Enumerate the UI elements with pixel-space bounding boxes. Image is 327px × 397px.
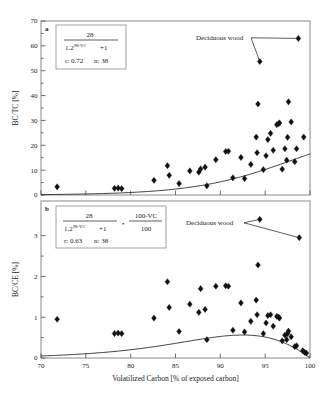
annotation-leader-line [251,38,298,39]
y-tick-label: 40 [31,92,39,100]
data-point [268,130,273,136]
data-point [264,153,269,159]
y-tick-label: 3 [34,232,38,240]
data-point [119,185,124,191]
formula-exponent: 98-VC [73,224,86,229]
data-point [239,154,244,160]
panel-letter-b: b [45,205,49,213]
annotation-deciduous-wood-a: Deciduous wood [196,34,298,62]
figure-container: 010203040506070BC/TC [%]a281.298-VC+1r: … [0,0,327,397]
data-point [271,323,276,329]
data-point [152,315,157,321]
data-point [177,180,182,186]
x-tick-label: 80 [127,362,135,370]
data-point [265,136,270,142]
data-point [230,327,235,333]
data-point [264,320,269,326]
data-point [261,167,266,173]
y-axis-title: BC/TC [%] [11,91,20,126]
data-point [282,146,287,152]
y-tick-label: 70 [31,17,39,25]
data-point [256,262,261,268]
data-point [167,304,172,310]
data-point [177,328,182,334]
data-point [55,184,60,190]
data-point [230,175,235,181]
data-point [119,330,124,336]
data-point [196,309,201,315]
y-axis-title: BC/CE [%] [11,262,20,297]
data-point [257,216,262,222]
data-point [248,318,253,324]
data-point [204,183,209,189]
data-point [165,279,170,285]
y-tick-label: 30 [31,117,39,125]
formula-numerator: 28 [87,31,95,39]
formula-base: 1.2 [64,225,73,233]
data-point [256,101,261,107]
data-point [198,286,203,292]
panel-letter-a: a [45,25,49,33]
correlation-label: r: 0.63 [64,237,83,245]
data-point [289,334,294,340]
scatter-figure: 010203040506070BC/TC [%]a281.298-VC+1r: … [0,0,327,397]
panel-a: 010203040506070BC/TC [%]a281.298-VC+1r: … [11,17,310,199]
data-point [203,164,208,170]
data-point [167,172,172,178]
annotation-leader-line [244,219,260,222]
x-tick-label: 70 [38,362,46,370]
correlation-label: r: 0.72 [65,57,84,65]
data-point [203,306,208,312]
fitted-curve [41,154,310,195]
y-tick-label: 20 [31,142,39,150]
annotation-label: Deciduous wood [196,34,244,42]
formula-box-a: 281.298-VC+1r: 0.72n: 38 [56,25,126,69]
y-tick-label: 0 [34,354,38,362]
x-tick-label: 95 [262,362,270,370]
data-point [254,297,259,303]
y-tick-label: 50 [31,67,39,75]
annotation-deciduous-wood-b: Deciduous wood [186,219,299,238]
data-point [204,337,209,343]
data-point [254,134,259,140]
fit-curve-a [41,154,310,195]
x-tick-label: 85 [172,362,180,370]
annotation-label: Deciduous wood [186,219,234,227]
data-point [289,119,294,125]
x-tick-label: 100 [305,362,316,370]
panel-b: 7075808590951000123BC/CE [%]b281.298-VC+… [11,201,316,370]
y-tick-label: 1 [34,314,38,322]
formula-exponent: 98-VC [74,43,87,48]
y-tick-label: 60 [31,42,39,50]
data-point [294,146,299,152]
data-point [257,58,262,64]
data-point [213,283,218,289]
y-axis-b: 0123BC/CE [%] [11,232,46,362]
data-point [152,177,157,183]
sample-size-label: n: 38 [94,57,109,65]
data-point [242,329,247,335]
data-point [55,316,60,322]
data-point [271,147,276,153]
y-tick-label: 0 [34,191,38,199]
x-axis-b: 707580859095100 [38,354,316,371]
x-axis-title-group: Volatilized Carbon [% of exposed carbon] [112,374,238,383]
formula-base: 1.2 [65,44,74,52]
annotation-leader-line [244,223,299,238]
data-point [187,301,192,307]
formula-plus-one: +1 [100,44,108,52]
data-point [261,330,266,336]
data-point [239,300,244,306]
data-point [255,312,260,318]
formula-mult-denominator: 100 [141,225,152,233]
y-tick-label: 2 [34,273,38,281]
data-point [301,134,306,140]
data-point [286,99,291,105]
formula-mult-numerator: 100-VC [135,212,158,220]
formula-box-b: 281.298-VC+1•100-VC100r: 0.63n: 38 [56,206,166,248]
annotation-leader-line [251,38,260,62]
y-tick-label: 10 [31,167,39,175]
data-point [165,163,170,169]
data-point [280,166,285,172]
y-axis-a: 010203040506070BC/TC [%] [11,17,46,199]
